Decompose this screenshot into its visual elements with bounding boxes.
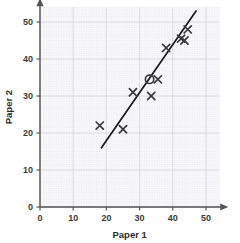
y-tick-label: 30	[23, 91, 33, 101]
x-tick-label: 20	[101, 213, 111, 223]
x-tick-label: 0	[37, 213, 42, 223]
y-axis-arrowhead	[36, 0, 43, 6]
x-tick-label: 50	[201, 213, 211, 223]
y-tick-label: 0	[28, 202, 33, 212]
x-axis-title: Paper 1	[112, 229, 147, 240]
x-tick-label: 30	[135, 213, 145, 223]
y-tick-label: 50	[23, 17, 33, 27]
y-tick-label: 20	[23, 128, 33, 138]
scatter-plot-figure: 0102030405001020304050Paper 1Paper 2	[0, 0, 240, 243]
x-axis-arrowhead	[220, 203, 228, 210]
x-tick-label: 10	[68, 213, 78, 223]
x-tick-label: 40	[168, 213, 178, 223]
plot-canvas: 0102030405001020304050Paper 1Paper 2	[0, 0, 240, 243]
y-tick-label: 40	[23, 54, 33, 64]
y-axis-title: Paper 2	[3, 90, 14, 124]
y-tick-label: 10	[23, 165, 33, 175]
